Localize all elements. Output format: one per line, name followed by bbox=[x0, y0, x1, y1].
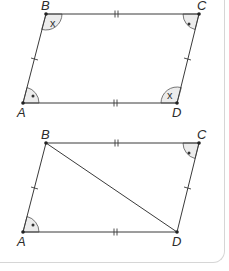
diagonal-BD bbox=[46, 143, 177, 232]
angle-D-mark: x bbox=[167, 89, 173, 101]
vertex-B-label: B bbox=[41, 0, 50, 13]
angle-A-dot bbox=[32, 224, 35, 227]
vertex-A-label: A bbox=[16, 234, 26, 249]
vertex-C-label: C bbox=[197, 0, 207, 13]
vertex-D-label: D bbox=[172, 105, 181, 120]
side-AB bbox=[23, 143, 46, 232]
vertex-C-label: C bbox=[197, 127, 207, 142]
side-DC bbox=[177, 14, 199, 103]
angle-B-mark: x bbox=[50, 17, 56, 29]
geometry-diagram: x x B C A D bbox=[0, 0, 229, 271]
parallelogram-top: x x B C A D bbox=[16, 0, 207, 120]
vertex-B-label: B bbox=[41, 127, 50, 142]
vertex-A-label: A bbox=[16, 105, 26, 120]
angle-C-dot bbox=[188, 152, 191, 155]
side-DC bbox=[177, 143, 199, 232]
angle-C-dot bbox=[188, 23, 191, 26]
angle-A-dot bbox=[32, 95, 35, 98]
side-AB bbox=[23, 14, 46, 103]
parallelogram-bottom: B C A D bbox=[16, 127, 207, 249]
vertex-D-label: D bbox=[172, 234, 181, 249]
